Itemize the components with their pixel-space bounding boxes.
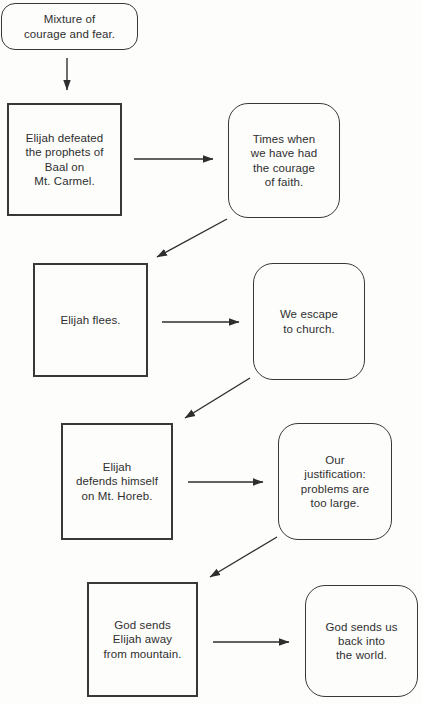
node-god-sends-elijah-away: God sends Elijah away from mountain. <box>87 582 198 697</box>
node-our-justification: Our justification: problems are too larg… <box>278 423 392 540</box>
node-label: Elijah defeated the prophets of Baal on … <box>25 131 103 187</box>
node-label: Times when we have had the courage of fa… <box>251 132 317 188</box>
arrow-escape-to-defends <box>185 378 250 418</box>
node-label: Elijah flees. <box>60 313 120 327</box>
arrow-courage-to-flees <box>157 219 227 257</box>
node-label: Mixture of courage and fear. <box>24 12 115 40</box>
node-mixture-of-courage-and-fear: Mixture of courage and fear. <box>1 3 138 50</box>
node-elijah-flees: Elijah flees. <box>33 263 148 377</box>
node-label: We escape to church. <box>280 307 338 335</box>
node-elijah-defends-himself: Elijah defends himself on Mt. Horeb. <box>61 423 173 540</box>
node-we-escape-to-church: We escape to church. <box>253 263 365 380</box>
node-label: God sends us back into the world. <box>325 620 397 662</box>
arrow-justification-to-sends-away <box>210 537 277 577</box>
node-label: God sends Elijah away from mountain. <box>103 618 181 660</box>
node-label: Elijah defends himself on Mt. Horeb. <box>76 460 158 502</box>
flowchart-page: Mixture of courage and fear. Elijah defe… <box>0 0 422 704</box>
node-times-of-courage-of-faith: Times when we have had the courage of fa… <box>228 103 340 218</box>
node-god-sends-us-back: God sends us back into the world. <box>305 585 418 697</box>
node-label: Our justification: problems are too larg… <box>301 453 369 509</box>
node-elijah-defeated-prophets: Elijah defeated the prophets of Baal on … <box>7 103 122 216</box>
